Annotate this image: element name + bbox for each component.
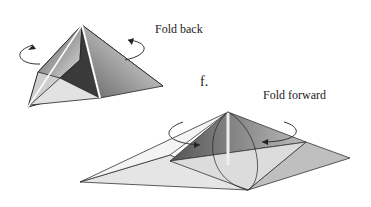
rotation-arrow-right-icon: [125, 38, 144, 60]
top-origami-figure: [28, 25, 163, 107]
fold-back-label: Fold back: [155, 22, 203, 37]
step-label: f.: [200, 74, 208, 90]
rotation-arrow-left-icon: [20, 45, 40, 64]
fold-forward-label: Fold forward: [263, 88, 326, 103]
bottom-origami-figure: [80, 112, 350, 190]
